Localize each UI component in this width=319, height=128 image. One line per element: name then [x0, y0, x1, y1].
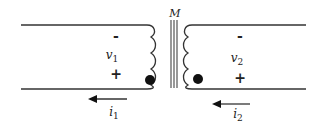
right-current-arrow-head: [212, 100, 221, 108]
right-polarity-dot: [193, 74, 203, 84]
mutual-inductance-label: M: [168, 7, 181, 20]
right-coil: [184, 25, 193, 89]
coupled-inductor-diagram: M - v1 + - v2 + i1 i2: [0, 0, 319, 128]
left-polarity-dot: [145, 75, 155, 85]
right-current-label: i2: [233, 107, 243, 123]
left-current-label: i1: [109, 105, 119, 121]
left-voltage-label: v1: [106, 48, 119, 64]
left-plus-sign: +: [110, 66, 122, 82]
right-voltage-label: v2: [231, 51, 244, 67]
left-current-arrow-head: [88, 95, 97, 103]
left-minus-sign: -: [113, 28, 119, 44]
right-minus-sign: -: [237, 28, 243, 44]
right-plus-sign: +: [234, 70, 246, 86]
